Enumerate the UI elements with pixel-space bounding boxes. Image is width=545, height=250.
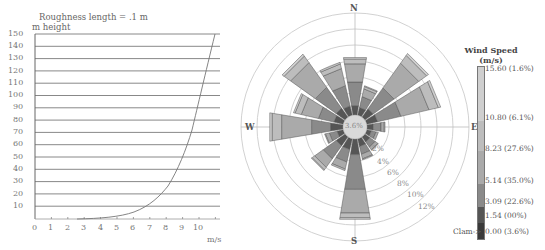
x-tick: 6: [130, 223, 135, 232]
ring-label: 8%: [397, 179, 409, 188]
rose-petal-segment: [340, 213, 370, 218]
x-tick: 3: [81, 223, 86, 232]
profile-curve: [77, 34, 215, 219]
x-tick: 7: [147, 223, 152, 232]
y-tick: 40: [13, 164, 23, 173]
y-tick: 80: [13, 115, 23, 124]
x-tick: 10: [193, 223, 203, 232]
profile-chart: [0, 0, 230, 250]
rose-petal-segment: [312, 120, 331, 134]
ring-label: 12%: [418, 202, 435, 211]
x-tick: 1: [48, 223, 53, 232]
legend-swatch: [478, 121, 484, 151]
rose-petal-segment: [340, 218, 371, 220]
y-tick: 10: [13, 201, 23, 210]
rose-petal-segment: [348, 82, 363, 106]
y-tick: 50: [13, 152, 23, 161]
rose-petal-segment: [373, 123, 381, 132]
legend-label: 5.14 (35.0%): [485, 176, 534, 185]
x-axis-unit: m/s: [207, 235, 221, 244]
y-tick: 100: [8, 90, 23, 99]
y-tick: 120: [8, 66, 23, 75]
rose-petal-segment: [384, 122, 385, 132]
profile-plot: [0, 0, 230, 250]
rose-petal-segment: [381, 122, 384, 132]
y-tick: 150: [8, 29, 23, 38]
compass-north: N: [350, 3, 358, 13]
x-tick: 0: [32, 223, 37, 232]
legend-calm-label: Clam->: [453, 227, 482, 236]
compass-west: W: [245, 122, 255, 132]
y-tick: 30: [13, 176, 23, 185]
calm-center-label: 3.6%: [345, 122, 363, 130]
legend-label: 0.00 (3.6%): [485, 227, 529, 236]
ring-label: 10%: [407, 190, 424, 199]
legend-label: 10.80 (6.1%): [485, 113, 534, 122]
y-tick: 70: [13, 127, 23, 136]
y-tick: 140: [8, 41, 23, 50]
legend-swatch: [478, 151, 484, 184]
legend-colorbar: [477, 66, 485, 240]
y-tick: 110: [8, 78, 23, 87]
rose-petal-segment: [282, 115, 312, 139]
ring-label: 4%: [377, 157, 389, 166]
rose-petal-segment: [343, 58, 366, 60]
legend-label: 1.54 (00%): [485, 211, 527, 220]
legend-title: Wind Speed: [461, 45, 521, 55]
compass-south: S: [351, 236, 357, 246]
rose-petal-segment: [344, 64, 365, 82]
x-tick: 8: [163, 223, 168, 232]
x-tick: 4: [98, 223, 103, 232]
legend-swatch: [478, 207, 484, 223]
rose-petal-segment: [331, 123, 344, 131]
ring-label: 2%: [372, 144, 384, 153]
rose-petal-segment: [270, 113, 272, 141]
y-tick: 20: [13, 189, 23, 198]
y-tick: 130: [8, 53, 23, 62]
legend-label: 3.09 (22.6%): [485, 197, 534, 206]
rose-petal-segment: [344, 59, 367, 64]
rose-petal-segment: [367, 124, 373, 130]
rose-petal-segment: [341, 189, 370, 213]
x-tick: 2: [65, 223, 70, 232]
rose-petal-segment: [351, 106, 358, 115]
legend-swatch: [478, 184, 484, 207]
legend-swatch: [478, 67, 484, 121]
y-tick: 90: [13, 102, 23, 111]
legend-label: 8.23 (27.6%): [485, 144, 534, 153]
rose-petal-segment: [272, 113, 281, 141]
ring-label: 6%: [387, 168, 399, 177]
x-tick: 9: [179, 223, 184, 232]
legend-label: 15.60 (1.6%): [485, 64, 534, 73]
x-tick: 5: [114, 223, 119, 232]
y-tick: 60: [13, 139, 23, 148]
